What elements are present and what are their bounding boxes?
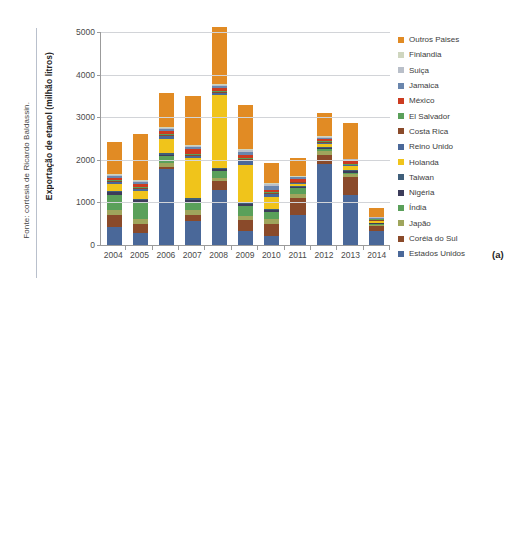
stacked-bar[interactable] [343, 123, 358, 245]
y-tick-mark [97, 75, 101, 76]
panel-a-plot-area [100, 32, 390, 246]
legend-item[interactable]: Nigéria [398, 185, 465, 200]
bar-segment [238, 231, 253, 245]
bar-segment [369, 208, 384, 217]
legend-swatch-icon [398, 251, 404, 257]
legend-label: Finlandia [409, 50, 441, 59]
stacked-bar[interactable] [317, 113, 332, 245]
bar-segment [290, 198, 305, 215]
bar-segment [343, 177, 358, 195]
legend-label: Suiça [409, 66, 429, 75]
gridline [101, 32, 390, 33]
legend-swatch-icon [398, 190, 404, 196]
legend-label: Outros Paises [409, 35, 459, 44]
legend-label: México [409, 96, 434, 105]
bar-slot [232, 32, 258, 245]
y-tick-mark [97, 160, 101, 161]
bar-slot [259, 32, 285, 245]
legend-item[interactable]: Japão [398, 216, 465, 231]
legend-swatch-icon [398, 174, 404, 180]
legend-swatch-icon [398, 98, 404, 104]
legend-item[interactable]: Coréia do Sul [398, 231, 465, 246]
legend-swatch-icon [398, 144, 404, 150]
x-tick-label: 2013 [337, 250, 363, 260]
x-tick-label: 2005 [126, 250, 152, 260]
panel-importacao: Fonte: cortesia de Ricardo Baldassin. Im… [0, 276, 526, 541]
bar-segment [317, 164, 332, 245]
panel-a-caption: (a) [492, 249, 504, 260]
legend-swatch-icon [398, 159, 404, 165]
x-tick-label: 2009 [232, 250, 258, 260]
bar-segment [133, 233, 148, 245]
legend-swatch-icon [398, 37, 404, 43]
stacked-bar[interactable] [133, 134, 148, 245]
panel-exportacao: Fonte: cortesia de Ricardo Baldassin. Ex… [0, 6, 526, 276]
bar-segment [185, 158, 200, 198]
bar-segment [107, 215, 122, 227]
bar-slot [180, 32, 206, 245]
legend-label: Japão [409, 219, 431, 228]
bar-segment [133, 134, 148, 180]
stacked-bar[interactable] [238, 105, 253, 245]
legend-label: Reino Unido [409, 142, 453, 151]
legend-item[interactable]: Suiça [398, 63, 465, 78]
stacked-bar[interactable] [369, 208, 384, 245]
stacked-bar[interactable] [264, 163, 279, 245]
x-tick-label: 2011 [285, 250, 311, 260]
legend-item[interactable]: Reino Unido [398, 139, 465, 154]
x-tick-label: 2004 [100, 250, 126, 260]
y-tick-label: 4000 [76, 70, 95, 80]
legend-item[interactable]: Jamaica [398, 78, 465, 93]
legend-item[interactable]: El Salvador [398, 108, 465, 123]
x-tick-label: 2007 [179, 250, 205, 260]
bar-segment [185, 96, 200, 145]
bar-segment [159, 139, 174, 153]
bar-segment [107, 142, 122, 174]
bar-segment [238, 165, 253, 203]
legend-item[interactable]: Finlandia [398, 47, 465, 62]
legend-swatch-icon [398, 205, 404, 211]
panel-a-divider [36, 28, 37, 278]
stacked-bar[interactable] [159, 93, 174, 245]
x-tick-label: 2014 [364, 250, 390, 260]
legend-swatch-icon [398, 113, 404, 119]
legend-item[interactable]: Holanda [398, 154, 465, 169]
legend-item[interactable]: Costa Rica [398, 124, 465, 139]
stacked-bar[interactable] [107, 142, 122, 245]
legend-swatch-icon [398, 83, 404, 89]
bar-slot [127, 32, 153, 245]
legend-label: Costa Rica [409, 127, 448, 136]
bar-slot [206, 32, 232, 245]
legend-label: Holanda [409, 158, 439, 167]
legend-label: Jamaica [409, 81, 439, 90]
bar-segment [238, 105, 253, 149]
legend-item[interactable]: Índia [398, 200, 465, 215]
bar-slot [285, 32, 311, 245]
legend-item[interactable]: Outros Paises [398, 32, 465, 47]
y-tick-label: 5000 [76, 27, 95, 37]
y-tick-label: 2000 [76, 155, 95, 165]
bar-segment [133, 191, 148, 199]
bar-segment [133, 203, 148, 219]
x-tick-label: 2006 [153, 250, 179, 260]
legend-item[interactable]: Estados Unidos [398, 246, 465, 261]
stacked-bar[interactable] [212, 27, 227, 245]
legend-swatch-icon [398, 52, 404, 58]
gridline [101, 117, 390, 118]
gridline [101, 202, 390, 203]
panel-a-source-note: Fonte: cortesia de Ricardo Baldassin. [22, 102, 31, 239]
bar-segment [343, 123, 358, 159]
bar-segment [159, 169, 174, 245]
bar-segment [290, 215, 305, 245]
legend-label: El Salvador [409, 112, 450, 121]
y-tick-label: 0 [90, 240, 95, 250]
y-tick-mark [97, 202, 101, 203]
bar-segment [264, 224, 279, 237]
legend-item[interactable]: Taiwan [398, 170, 465, 185]
bar-segment [264, 212, 279, 219]
x-tick-label: 2010 [258, 250, 284, 260]
legend-label: Coréia do Sul [409, 234, 457, 243]
bar-segment [133, 224, 148, 233]
legend-item[interactable]: México [398, 93, 465, 108]
legend-label: Taiwan [409, 173, 434, 182]
